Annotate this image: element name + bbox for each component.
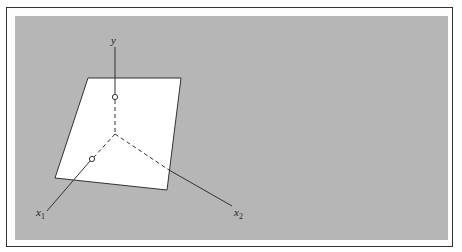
point-on-y-axis (112, 94, 117, 99)
axes-diagram: y x1 x2 (0, 0, 462, 252)
x1-axis-label: x1 (35, 206, 45, 221)
plane (55, 78, 181, 190)
x2-axis-solid (169, 170, 232, 206)
y-axis-label: y (110, 34, 116, 46)
point-on-x1-axis (89, 156, 94, 161)
x2-axis-label: x2 (233, 206, 243, 221)
